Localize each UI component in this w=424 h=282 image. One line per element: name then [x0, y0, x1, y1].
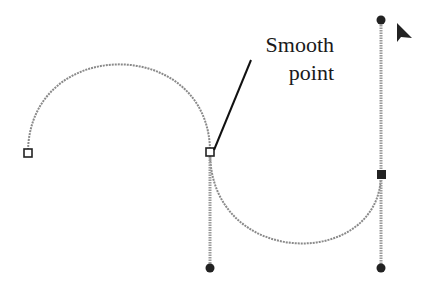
right-handle-bottom-point[interactable]: [377, 264, 386, 273]
left-anchor-point[interactable]: [24, 149, 32, 157]
arrow-cursor-icon: [397, 23, 412, 42]
curve-segment-lower: [210, 152, 381, 243]
annotation-leader-line: [214, 60, 251, 150]
right-handle-top-point[interactable]: [377, 16, 386, 25]
smooth-anchor-point[interactable]: [206, 148, 214, 156]
annotation-line1: Smooth: [250, 31, 334, 59]
bezier-diagram: [0, 0, 424, 282]
right-anchor-point-selected[interactable]: [377, 170, 386, 179]
annotation-label: Smooth point: [250, 31, 334, 87]
annotation-line2: point: [250, 59, 334, 87]
smooth-handle-bottom-point[interactable]: [206, 264, 215, 273]
curve-segment-upper: [28, 64, 210, 153]
